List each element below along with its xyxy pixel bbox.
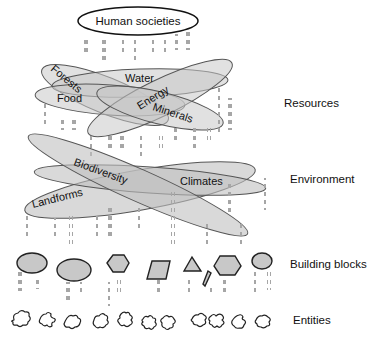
entities-row: [12, 311, 271, 330]
entity-blob: [118, 312, 133, 326]
block-ellipse-2: [57, 259, 91, 281]
tier-label-entities: Entities: [293, 314, 331, 326]
human-societies-label: Human societies: [95, 15, 180, 27]
entity-blob: [209, 314, 224, 327]
block-circle: [252, 253, 272, 269]
block-parallelogram: [147, 261, 170, 279]
entity-blob: [12, 311, 31, 327]
label-water: Water: [125, 72, 154, 84]
tier-label-building-blocks: Building blocks: [290, 258, 367, 270]
tier-label-resources: Resources: [284, 97, 339, 109]
tier-label-environment: Environment: [290, 173, 355, 185]
block-hexagon-1: [107, 255, 129, 272]
entity-blob: [232, 315, 246, 329]
entity-blob: [64, 315, 81, 328]
entity-blob: [161, 316, 176, 330]
block-triangle: [184, 257, 201, 271]
block-hexagon-2: [214, 256, 241, 275]
building-blocks: [17, 253, 272, 286]
label-food: Food: [57, 92, 82, 104]
entity-blob: [93, 314, 108, 328]
entity-blob: [142, 316, 157, 330]
entity-blob: [39, 313, 55, 327]
human-societies-node: Human societies: [78, 7, 198, 35]
label-climates: Climates: [180, 175, 223, 187]
block-ellipse-1: [17, 253, 47, 273]
entity-blob: [255, 315, 270, 328]
diagram-canvas: Human societies Forests Water Food Energ…: [0, 0, 377, 343]
block-sliver: [203, 271, 211, 286]
connectors-societies-resources: [84, 32, 190, 62]
entity-blob: [191, 314, 206, 327]
